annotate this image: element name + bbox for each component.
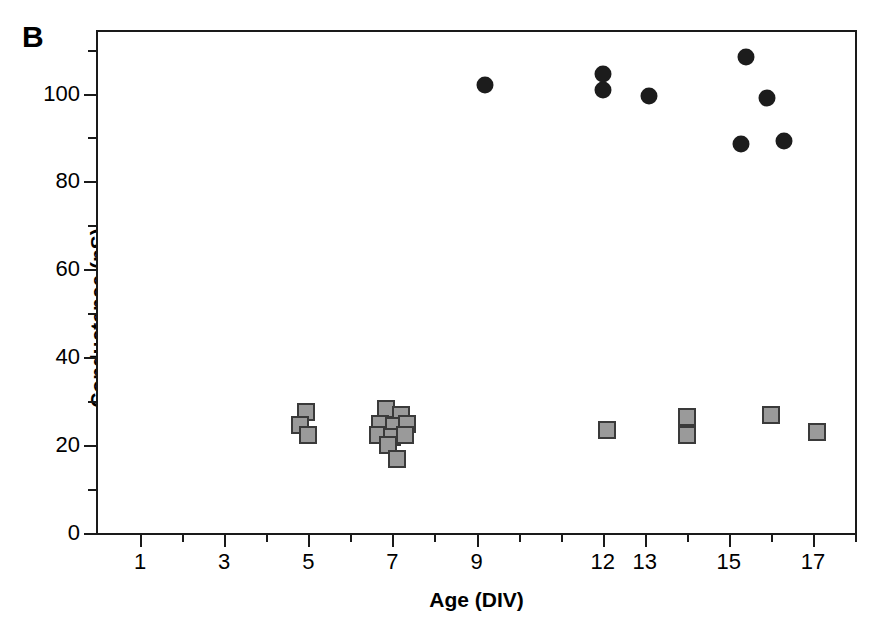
data-point-square bbox=[396, 426, 414, 444]
data-point-square bbox=[388, 450, 406, 468]
x-tick-label: 13 bbox=[632, 549, 656, 575]
x-tick-label: 3 bbox=[218, 549, 230, 575]
y-tick-minor bbox=[88, 313, 98, 315]
figure-panel: B Conductance (pS) Age (DIV) 02040608010… bbox=[0, 0, 877, 635]
data-point-circle bbox=[733, 136, 750, 153]
x-tick-major bbox=[729, 533, 731, 547]
x-tick-label: 7 bbox=[386, 549, 398, 575]
y-tick-label: 40 bbox=[56, 344, 80, 370]
y-tick-minor bbox=[88, 50, 98, 52]
y-tick-major bbox=[84, 357, 98, 359]
x-tick-minor bbox=[350, 533, 352, 542]
y-tick-label: 0 bbox=[68, 520, 80, 546]
data-point-square bbox=[299, 426, 317, 444]
y-tick-minor bbox=[88, 225, 98, 227]
x-tick-minor bbox=[182, 533, 184, 542]
data-point-circle bbox=[594, 65, 611, 82]
x-tick-minor bbox=[266, 533, 268, 542]
data-point-circle bbox=[594, 82, 611, 99]
y-tick-major bbox=[84, 533, 98, 535]
data-point-circle bbox=[640, 88, 657, 105]
data-point-circle bbox=[758, 90, 775, 107]
x-tick-major bbox=[392, 533, 394, 547]
x-tick-label: 12 bbox=[590, 549, 614, 575]
x-tick-minor bbox=[561, 533, 563, 542]
y-tick-label: 80 bbox=[56, 168, 80, 194]
y-tick-major bbox=[84, 445, 98, 447]
y-tick-minor bbox=[88, 401, 98, 403]
data-point-square bbox=[678, 426, 696, 444]
data-point-square bbox=[808, 423, 826, 441]
data-point-square bbox=[598, 421, 616, 439]
x-tick-label: 9 bbox=[470, 549, 482, 575]
y-tick-label: 100 bbox=[43, 81, 80, 107]
y-tick-label: 20 bbox=[56, 432, 80, 458]
x-tick-major bbox=[140, 533, 142, 547]
x-axis-title: Age (DIV) bbox=[96, 588, 857, 612]
y-tick-minor bbox=[88, 489, 98, 491]
x-tick-label: 17 bbox=[801, 549, 825, 575]
x-tick-minor bbox=[855, 533, 857, 542]
x-tick-major bbox=[308, 533, 310, 547]
x-tick-major bbox=[477, 533, 479, 547]
x-tick-major bbox=[224, 533, 226, 547]
x-tick-label: 1 bbox=[134, 549, 146, 575]
y-tick-label: 60 bbox=[56, 256, 80, 282]
x-tick-label: 5 bbox=[302, 549, 314, 575]
plot-area: 020406080100 1357912131517 bbox=[96, 30, 857, 535]
y-tick-major bbox=[84, 269, 98, 271]
x-tick-minor bbox=[771, 533, 773, 542]
x-tick-minor bbox=[687, 533, 689, 542]
x-tick-major bbox=[813, 533, 815, 547]
x-tick-minor bbox=[519, 533, 521, 542]
panel-label: B bbox=[22, 22, 44, 52]
data-point-circle bbox=[737, 49, 754, 66]
x-tick-major bbox=[645, 533, 647, 547]
x-tick-major bbox=[603, 533, 605, 547]
x-tick-label: 15 bbox=[717, 549, 741, 575]
data-points-layer bbox=[98, 32, 855, 533]
y-tick-major bbox=[84, 94, 98, 96]
x-tick-minor bbox=[434, 533, 436, 542]
data-point-square bbox=[762, 406, 780, 424]
y-tick-minor bbox=[88, 137, 98, 139]
y-tick-major bbox=[84, 181, 98, 183]
data-point-square bbox=[678, 408, 696, 426]
data-point-circle bbox=[476, 76, 493, 93]
data-point-circle bbox=[775, 132, 792, 149]
